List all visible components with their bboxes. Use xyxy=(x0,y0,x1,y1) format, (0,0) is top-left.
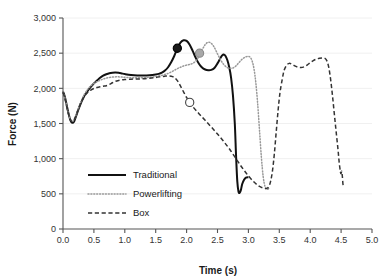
y-tick-label: 1,500 xyxy=(33,119,56,129)
x-tick-label: 2.0 xyxy=(180,235,193,245)
y-tick-label: 500 xyxy=(41,189,56,199)
y-tick-group: 05001,0001,5002,0002,5003,000 xyxy=(33,13,63,234)
y-tick-label: 2,500 xyxy=(33,48,56,58)
y-tick-label: 3,000 xyxy=(33,13,56,23)
x-tick-label: 1.0 xyxy=(119,235,132,245)
data-marker-powerlifting xyxy=(195,49,203,57)
data-marker-traditional xyxy=(173,44,181,52)
x-tick-label: 3.5 xyxy=(273,235,286,245)
x-axis-title: Time (s) xyxy=(199,265,237,276)
data-series-group xyxy=(63,40,344,193)
x-tick-label: 3.0 xyxy=(242,235,255,245)
x-tick-label: 0.5 xyxy=(88,235,101,245)
x-tick-label: 4.0 xyxy=(304,235,317,245)
chart-legend: TraditionalPowerliftingBox xyxy=(88,169,182,218)
legend-label-traditional: Traditional xyxy=(133,169,177,180)
force-time-chart-figure: 05001,0001,5002,0002,5003,000 0.00.51.01… xyxy=(0,0,387,280)
series-line-powerlifting xyxy=(63,42,269,189)
y-tick-label: 0 xyxy=(51,224,56,234)
data-marker-box xyxy=(186,98,194,106)
legend-label-box: Box xyxy=(133,207,150,218)
gridlines-group xyxy=(63,18,372,194)
chart-canvas: 05001,0001,5002,0002,5003,000 0.00.51.01… xyxy=(0,0,387,280)
x-tick-label: 5.0 xyxy=(366,235,379,245)
x-tick-label: 0.0 xyxy=(57,235,70,245)
legend-label-powerlifting: Powerlifting xyxy=(133,188,182,199)
y-tick-label: 1,000 xyxy=(33,154,56,164)
x-tick-label: 1.5 xyxy=(149,235,162,245)
x-tick-group: 0.00.51.01.52.02.53.03.54.04.55.0 xyxy=(57,229,379,245)
y-axis-title: Force (N) xyxy=(7,102,18,146)
x-tick-label: 2.5 xyxy=(211,235,224,245)
y-tick-label: 2,000 xyxy=(33,84,56,94)
x-tick-label: 4.5 xyxy=(335,235,348,245)
